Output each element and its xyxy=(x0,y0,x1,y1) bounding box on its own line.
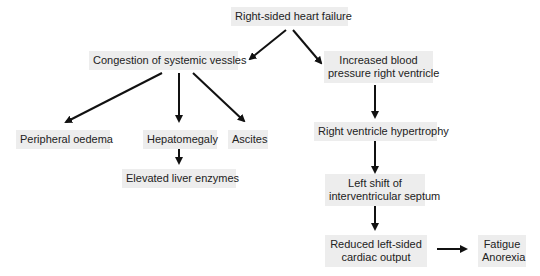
node-ascites: Ascites xyxy=(228,130,268,149)
node-label-line2: pressure right ventricle xyxy=(328,67,429,80)
node-hepatomegaly: Hepatomegaly xyxy=(143,130,217,149)
node-increased-blood-pressure: Increased blood pressure right ventricle xyxy=(324,51,433,83)
node-label-line1: Fatigue xyxy=(482,238,522,251)
node-label: Hepatomegaly xyxy=(147,133,218,145)
node-label-line1: Reduced left-sided xyxy=(329,238,423,251)
node-right-sided-heart-failure: Right-sided heart failure xyxy=(231,7,348,26)
node-label: Right-sided heart failure xyxy=(235,10,352,22)
node-label: Ascites xyxy=(232,133,267,145)
arrow-congestion-to-peripheral xyxy=(66,73,162,122)
node-reduced-cardiac-output: Reduced left-sided cardiac output xyxy=(325,235,427,267)
arrow-root-to-congestion xyxy=(250,30,286,59)
node-label: Elevated liver enzymes xyxy=(126,172,239,184)
node-left-shift-septum: Left shift of interventricular septum xyxy=(325,174,425,206)
node-fatigue-anorexia: Fatigue Anorexia xyxy=(478,235,526,267)
node-label-line1: Left shift of xyxy=(329,177,421,190)
node-congestion-systemic-vessels: Congestion of systemic vessles xyxy=(89,51,238,70)
node-peripheral-oedema: Peripheral oedema xyxy=(16,130,110,149)
node-label: Peripheral oedema xyxy=(20,133,113,145)
node-label-line1: Increased blood xyxy=(328,54,429,67)
node-label-line2: cardiac output xyxy=(329,251,423,264)
node-label: Right ventricle hypertrophy xyxy=(318,125,449,137)
arrow-congestion-to-ascites xyxy=(193,73,244,121)
arrow-root-to-increased-bp xyxy=(293,30,321,63)
node-elevated-liver-enzymes: Elevated liver enzymes xyxy=(122,169,236,188)
node-label-line2: interventricular septum xyxy=(329,190,421,203)
node-right-ventricle-hypertrophy: Right ventricle hypertrophy xyxy=(314,122,437,141)
node-label-line2: Anorexia xyxy=(482,251,522,264)
node-label: Congestion of systemic vessles xyxy=(93,54,246,66)
